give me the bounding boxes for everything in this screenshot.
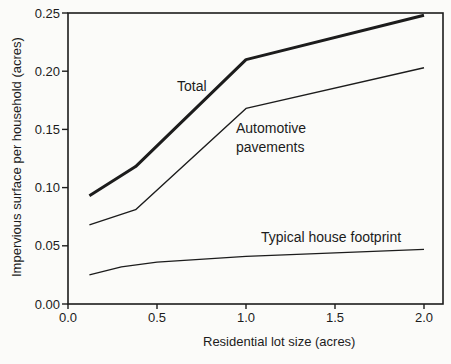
y-tick-label: 0.15: [35, 122, 60, 137]
x-tick-label: 0.5: [148, 310, 166, 325]
x-tick-label: 0.0: [59, 310, 77, 325]
x-axis-title: Residential lot size (acres): [203, 334, 343, 349]
x-tick-label: 2.0: [415, 310, 433, 325]
series-label-line: pavements: [236, 138, 306, 157]
x-tick-label: 1.0: [237, 310, 255, 325]
x-tick-label: 1.5: [326, 310, 344, 325]
series-line-typical-house-footprint: [89, 249, 424, 275]
y-tick-label: 0.25: [35, 6, 60, 21]
series-label-line: Automotive: [236, 119, 306, 138]
series-label-typical-house-footprint: Typical house footprint: [261, 228, 401, 247]
y-tick-label: 0.05: [35, 238, 60, 253]
figure: 0.000.050.100.150.200.250.00.51.01.52.0 …: [0, 0, 451, 364]
series-label-total: Total: [177, 77, 207, 96]
y-tick-label: 0.20: [35, 64, 60, 79]
chart-plot: 0.000.050.100.150.200.250.00.51.01.52.0: [0, 0, 451, 364]
y-axis-title: Impervious surface per household (acres): [9, 37, 24, 277]
series-label-automotive-pavements: Automotive pavements: [236, 119, 306, 157]
y-tick-label: 0.10: [35, 180, 60, 195]
y-tick-label: 0.00: [35, 297, 60, 312]
